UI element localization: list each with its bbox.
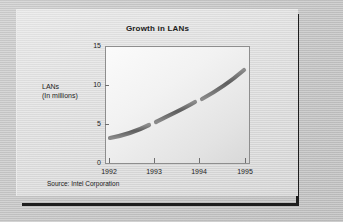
- y-tick-label-15: 15: [83, 42, 101, 49]
- series-segment-1993-1994: [156, 102, 195, 122]
- x-tick-label-1992: 1992: [93, 168, 125, 175]
- data-series-layer: [105, 46, 250, 164]
- slide-canvas: Growth in LANs LANs (In millions) 15 10 …: [0, 0, 343, 222]
- y-axis-label-line-2: (In millions): [42, 91, 108, 100]
- chart-title: Growth in LANs: [17, 24, 298, 33]
- series-line-lans: [105, 46, 250, 164]
- slide-panel: Growth in LANs LANs (In millions) 15 10 …: [16, 9, 298, 196]
- source-note: Source: Intel Corporation: [47, 180, 119, 187]
- x-tick-label-1994: 1994: [183, 168, 215, 175]
- series-segment-1994-1995: [202, 70, 244, 99]
- frame-shadow-bottom: [22, 203, 299, 206]
- series-segment-1992-1993: [110, 125, 149, 138]
- x-tick-label-1993: 1993: [138, 168, 170, 175]
- y-tick-label-5: 5: [83, 120, 101, 127]
- y-tick-label-0: 0: [83, 159, 101, 166]
- x-tick-label-1995: 1995: [229, 168, 261, 175]
- y-tick-label-10: 10: [83, 81, 101, 88]
